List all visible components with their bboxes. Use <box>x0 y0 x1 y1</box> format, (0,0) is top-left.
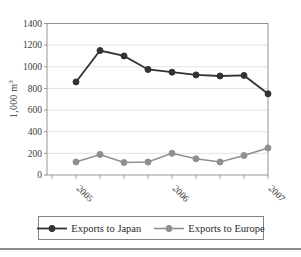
data-point-marker <box>97 151 103 157</box>
data-point-marker <box>73 79 79 85</box>
legend-label-europe: Exports to Europe <box>188 223 264 234</box>
data-point-marker <box>217 159 223 165</box>
legend-item-japan: Exports to Japan <box>37 223 141 234</box>
chart-legend: Exports to Japan Exports to Europe <box>38 216 264 240</box>
data-point-marker <box>169 69 175 75</box>
y-tick-label: 1400 <box>23 19 42 29</box>
legend-label-japan: Exports to Japan <box>71 223 141 234</box>
gridlines <box>47 24 268 154</box>
y-tick-label: 800 <box>28 84 43 94</box>
data-point-marker <box>73 159 79 165</box>
series-0 <box>73 48 271 97</box>
y-tick-label: 1000 <box>23 62 42 72</box>
japan-series-marker-icon <box>37 224 67 233</box>
y-tick-label: 200 <box>28 149 43 159</box>
x-tick-label: 2006 <box>171 183 192 204</box>
y-axis-title-text: 1,000 m <box>8 84 19 118</box>
plot-border <box>47 24 268 176</box>
data-point-marker <box>241 153 247 159</box>
legend-item-europe: Exports to Europe <box>154 223 264 234</box>
x-tick-label: 2005 <box>75 183 96 204</box>
data-point-marker <box>217 73 223 79</box>
europe-series-marker-icon <box>154 224 184 233</box>
figure-page: 0200400600800100012001400200520062007 1,… <box>0 0 301 257</box>
y-tick-label: 600 <box>28 105 43 115</box>
x-axis: 200520062007 <box>52 175 287 204</box>
y-tick-label: 0 <box>37 170 42 180</box>
data-point-marker <box>241 72 247 78</box>
data-point-marker <box>145 66 151 72</box>
data-point-marker <box>145 159 151 165</box>
x-tick-label: 2007 <box>267 183 288 204</box>
data-point-marker <box>121 160 127 166</box>
data-point-marker <box>169 150 175 156</box>
page-divider-line <box>0 248 301 250</box>
series-1 <box>73 145 271 166</box>
y-axis-title: 1,000 m3 <box>7 80 19 118</box>
data-point-marker <box>97 48 103 54</box>
data-point-marker <box>193 156 199 162</box>
data-point-marker <box>193 72 199 78</box>
data-point-marker <box>121 53 127 59</box>
line-chart: 0200400600800100012001400200520062007 1,… <box>0 0 301 212</box>
plot-area: 0200400600800100012001400200520062007 <box>0 0 301 212</box>
y-tick-label: 400 <box>28 127 43 137</box>
data-point-marker <box>265 145 271 151</box>
data-point-marker <box>265 91 271 97</box>
y-axis: 0200400600800100012001400 <box>23 19 47 181</box>
y-axis-title-exponent: 3 <box>7 80 15 84</box>
y-tick-label: 1200 <box>23 40 42 50</box>
